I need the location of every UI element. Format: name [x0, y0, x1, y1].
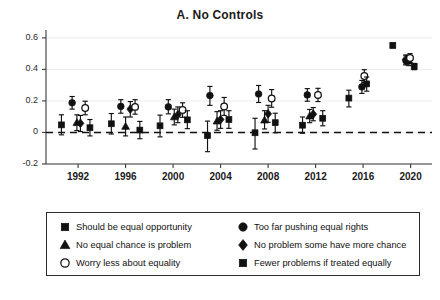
- legend-item[interactable]: Worry less about equality: [57, 254, 180, 272]
- x-tick-label: 2000: [153, 171, 193, 182]
- chart-legend: Should be equal opportunityNo equal chan…: [46, 212, 420, 276]
- axis-lines: [42, 30, 432, 168]
- x-tick-label: 2012: [296, 171, 336, 182]
- legend-square-solid-icon: [235, 255, 251, 271]
- legend-item-label: Worry less about equality: [76, 258, 180, 268]
- plot-area: [46, 30, 432, 175]
- gridlines: [46, 38, 432, 164]
- legend-square-solid-icon: [57, 219, 73, 235]
- legend-item-label: No problem some have more chance: [254, 240, 406, 250]
- legend-triangle-solid-icon: [57, 237, 73, 253]
- x-tick-label: 1992: [58, 171, 98, 182]
- x-tick-label: 2004: [201, 171, 241, 182]
- legend-diamond-solid-icon: [235, 237, 251, 253]
- legend-circle-open-icon: [57, 255, 73, 271]
- legend-item-label: Fewer problems if treated equally: [254, 258, 391, 268]
- y-tick-label: -0.2: [4, 158, 38, 168]
- y-tick-label: 0.2: [4, 95, 38, 105]
- series-1: [69, 56, 409, 114]
- x-tick-label: 2008: [248, 171, 288, 182]
- legend-item[interactable]: No equal chance is problem: [57, 236, 191, 254]
- legend-item[interactable]: Should be equal opportunity: [57, 218, 192, 236]
- x-tick-label: 2020: [391, 171, 431, 182]
- legend-item[interactable]: Too far pushing equal rights: [235, 218, 368, 236]
- legend-item-label: Too far pushing equal rights: [254, 222, 368, 232]
- legend-item[interactable]: Fewer problems if treated equally: [235, 254, 391, 272]
- plot-svg: [46, 30, 432, 175]
- legend-circle-solid-icon: [235, 219, 251, 235]
- legend-item[interactable]: No problem some have more chance: [235, 236, 406, 254]
- chart-figure: A. No Controls 0.60.40.20-0.2 1992199620…: [0, 0, 440, 300]
- data-points: [58, 43, 417, 152]
- series-2: [73, 56, 413, 135]
- legend-item-label: No equal chance is problem: [76, 240, 191, 250]
- x-tick-label: 2016: [343, 171, 383, 182]
- y-tick-label: 0.4: [4, 63, 38, 73]
- legend-item-label: Should be equal opportunity: [76, 222, 192, 232]
- y-tick-label: 0.6: [4, 32, 38, 42]
- chart-title: A. No Controls: [0, 8, 440, 22]
- y-tick-label: 0: [4, 126, 38, 136]
- x-tick-label: 1996: [106, 171, 146, 182]
- series-5: [87, 43, 417, 139]
